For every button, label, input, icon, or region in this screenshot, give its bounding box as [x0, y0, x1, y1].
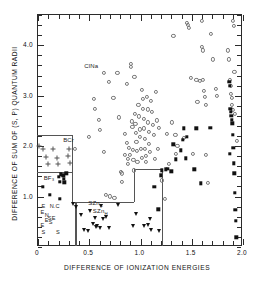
x-tick	[212, 15, 213, 19]
data-point	[131, 224, 135, 228]
data-point	[149, 228, 153, 232]
data-point	[159, 174, 162, 177]
y-tick	[38, 25, 42, 26]
y-tick	[38, 237, 42, 238]
x-tick	[243, 15, 244, 21]
data-point	[233, 172, 236, 175]
x-tick	[89, 15, 90, 21]
data-point	[231, 133, 234, 136]
y-tick-label: 4.0	[18, 41, 33, 48]
y-tick	[38, 166, 42, 167]
data-point	[235, 236, 238, 239]
region-boundary-szn-riser	[134, 169, 135, 202]
data-point	[182, 127, 185, 130]
corner-letter: S	[42, 229, 46, 235]
x-tick	[151, 15, 152, 19]
corner-letter: E	[42, 203, 46, 209]
x-tick-label: 0.5	[83, 249, 93, 256]
x-tick	[141, 15, 142, 21]
y-tick	[235, 197, 241, 198]
x-tick	[110, 241, 111, 245]
y-tick	[237, 76, 241, 77]
y-tick	[38, 106, 42, 107]
x-tick	[69, 15, 70, 19]
data-point	[153, 185, 156, 188]
x-tick	[212, 241, 213, 245]
data-point	[65, 172, 68, 175]
y-tick	[38, 76, 42, 77]
data-point	[74, 205, 78, 209]
region-label-bcr: BCr	[63, 137, 74, 143]
data-point	[41, 185, 44, 188]
region-label-bf3: BF₃	[44, 175, 55, 181]
data-point	[234, 219, 237, 222]
x-tick	[100, 241, 101, 245]
x-tick-label: 1.5	[186, 249, 196, 256]
x-tick	[38, 239, 39, 245]
x-tick	[79, 241, 80, 245]
x-tick	[161, 15, 162, 19]
data-point	[62, 181, 65, 184]
region-boundary-szn-shelf	[134, 169, 162, 170]
region-boundary-bcr-box-right	[72, 135, 73, 203]
y-tick	[38, 96, 44, 97]
x-tick	[182, 15, 183, 19]
data-point	[148, 217, 152, 221]
data-point	[67, 146, 72, 151]
y-tick	[38, 116, 42, 117]
y-tick	[235, 96, 241, 97]
y-tick	[237, 25, 241, 26]
data-point	[45, 161, 50, 166]
y-tick-label: 1.0	[18, 192, 33, 199]
data-point	[43, 154, 48, 159]
data-point	[172, 142, 175, 145]
data-point	[229, 110, 232, 113]
y-axis-title: DIFFERENCE OF SUM OF (S, P) QUANTUM RADI…	[11, 24, 18, 244]
x-tick	[89, 239, 90, 245]
data-point	[40, 146, 45, 151]
x-tick	[48, 241, 49, 245]
x-tick-label: 1.0	[135, 249, 145, 256]
data-point	[68, 161, 73, 166]
y-tick	[38, 217, 42, 218]
x-tick	[48, 15, 49, 19]
data-point	[232, 162, 235, 165]
y-tick	[235, 146, 241, 147]
data-point	[107, 226, 111, 230]
y-tick	[237, 55, 241, 56]
x-tick-label: 2.0	[237, 249, 247, 256]
y-tick-label: 2.0	[18, 142, 33, 149]
x-tick	[100, 15, 101, 19]
data-point	[65, 153, 70, 158]
y-tick	[237, 166, 241, 167]
data-point	[157, 229, 161, 233]
y-tick	[38, 86, 42, 87]
y-tick	[38, 126, 42, 127]
y-tick	[235, 45, 241, 46]
x-tick	[243, 239, 244, 245]
data-point	[160, 169, 163, 172]
data-point	[209, 126, 212, 129]
data-point	[228, 84, 231, 87]
x-tick	[192, 239, 193, 245]
region-boundary-bcr-box-top	[37, 135, 72, 136]
x-tick	[223, 15, 224, 19]
data-point	[170, 170, 173, 173]
region-label-rocksalt: ClNa	[84, 63, 98, 69]
structure-field-map-figure: DIFFERENCE OF IONIZATION ENERGIES DIFFER…	[0, 0, 269, 287]
x-tick	[182, 241, 183, 245]
y-tick	[237, 106, 241, 107]
data-point	[93, 216, 97, 220]
data-point	[181, 138, 184, 141]
x-tick-label: 0	[35, 249, 39, 256]
y-tick	[38, 176, 42, 177]
x-axis-title: DIFFERENCE OF IONIZATION ENERGIES	[64, 264, 210, 271]
y-tick	[237, 15, 241, 16]
x-tick	[79, 15, 80, 19]
y-tick	[38, 55, 42, 56]
y-tick	[237, 156, 241, 157]
data-point	[82, 228, 86, 232]
x-tick	[171, 241, 172, 245]
y-tick	[38, 136, 42, 137]
data-point	[179, 148, 182, 151]
